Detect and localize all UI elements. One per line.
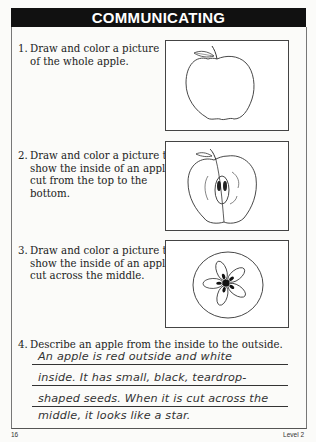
apple-half-icon xyxy=(166,142,288,230)
answer-line-1: An apple is red outside and white xyxy=(38,350,232,363)
question-1: 1. Draw and color a picture of the whole… xyxy=(18,43,159,68)
question-text-line: show the inside of an apple xyxy=(30,258,173,271)
writing-line xyxy=(32,364,288,365)
question-text-line: Draw and color a picture to xyxy=(30,245,173,258)
level-label: Level 2 xyxy=(283,431,304,438)
whole-apple-icon xyxy=(166,41,288,130)
drawing-box-apple-cut-across-middle xyxy=(165,240,289,328)
drawing-box-whole-apple xyxy=(165,40,289,131)
answer-line-3: shaped seeds. When it is cut across the xyxy=(38,392,268,405)
writing-line xyxy=(32,406,288,407)
question-text-line: Draw and color a picture xyxy=(30,43,159,56)
question-number: 3. xyxy=(18,245,28,258)
writing-line xyxy=(32,385,288,386)
section-header: COMMUNICATING xyxy=(11,8,306,27)
question-text-line: bottom. xyxy=(30,188,173,201)
answer-line-2: inside. It has small, black, teardrop- xyxy=(38,371,247,384)
question-number: 2. xyxy=(18,150,28,163)
question-text-line: cut across the middle. xyxy=(30,270,173,283)
answer-line-4: middle, it looks like a star. xyxy=(38,409,191,422)
apple-cross-section-star-icon xyxy=(166,241,288,327)
question-text-line: Draw and color a picture to xyxy=(30,150,173,163)
question-3: 3. Draw and color a picture to show the … xyxy=(18,245,173,283)
question-text-line: cut from the top to the xyxy=(30,175,173,188)
question-number: 4. xyxy=(18,339,28,352)
question-text-line: show the inside of an apple xyxy=(30,163,173,176)
page-number: 16 xyxy=(11,431,18,438)
question-2: 2. Draw and color a picture to show the … xyxy=(18,150,173,200)
drawing-box-apple-cut-top-to-bottom xyxy=(165,141,289,231)
question-text-line: of the whole apple. xyxy=(30,56,159,69)
question-number: 1. xyxy=(18,43,28,56)
